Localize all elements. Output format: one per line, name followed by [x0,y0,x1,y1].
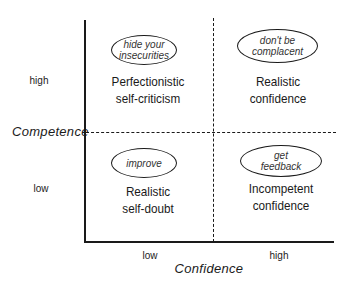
vertical-divider [213,18,214,242]
quadrant-label-top-right: Realistic confidence [233,73,323,107]
advice-line: insecurities [119,50,169,61]
y-tick-low: low [26,183,56,194]
x-axis-line [84,241,334,243]
horizontal-divider [86,132,336,133]
advice-line: complacent [252,46,303,57]
advice-line: hide your [119,39,169,50]
advice-ellipse-top-right: don't be complacent [237,29,318,63]
quadrant-label-top-left: Perfectionistic self-criticism [103,73,193,107]
advice-ellipse-bottom-left: improve [111,148,177,178]
y-axis-title: Competence [12,124,89,139]
advice-ellipse-top-left: hide your insecurities [111,35,177,65]
advice-line: get [261,150,302,161]
advice-line: feedback [261,161,302,172]
x-axis-title: Confidence [170,261,248,276]
x-tick-high: high [264,250,294,261]
x-tick-low: low [135,250,165,261]
advice-line: don't be [252,35,303,46]
y-tick-high: high [24,75,54,86]
advice-ellipse-bottom-right: get feedback [240,145,322,177]
quadrant-label-bottom-left: Realistic self-doubt [103,183,193,217]
advice-line: improve [126,158,162,169]
quadrant-label-bottom-right: Incompetent confidence [236,180,326,214]
